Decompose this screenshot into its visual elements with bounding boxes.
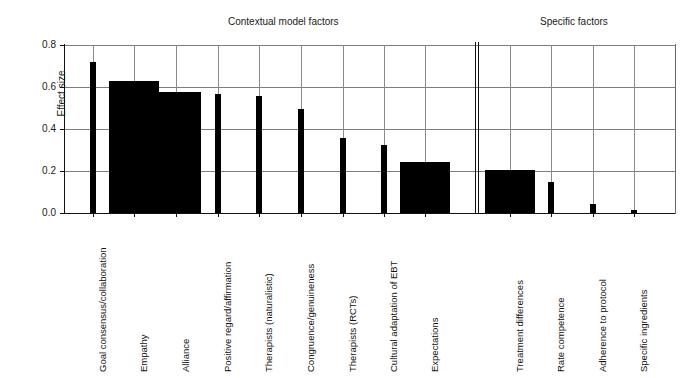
x-tick-mark (551, 213, 552, 217)
x-tick-mark (343, 213, 344, 217)
y-tick-label: 0.4 (30, 123, 56, 134)
bar (485, 170, 535, 213)
y-tick-mark (60, 213, 65, 214)
x-tick-label: Goal consensus/collaboration (97, 247, 108, 372)
x-tick-label: Expectations (429, 318, 440, 372)
y-tick-label: 0.2 (30, 165, 56, 176)
group-separator-line-2 (478, 42, 479, 214)
x-tick-label: Specific ingredients (638, 290, 649, 372)
x-tick-label: Therapists (RCTs) (347, 295, 358, 372)
gridline-x-12 (634, 45, 635, 213)
x-tick-label: Therapists (naturalistic) (263, 273, 274, 372)
x-tick-mark (218, 213, 219, 217)
x-tick-mark (510, 213, 511, 217)
x-tick-mark (259, 213, 260, 217)
x-axis-line (64, 213, 676, 214)
x-tick-label: Treatment differences (514, 280, 525, 372)
x-tick-label: Cultural adaptation of EBT (388, 261, 399, 372)
bar (151, 92, 201, 213)
x-tick-mark (301, 213, 302, 217)
y-tick-mark (60, 45, 65, 46)
x-tick-label: Adherence to protocol (597, 279, 608, 372)
x-tick-mark (134, 213, 135, 217)
gridline-x-11 (593, 45, 594, 213)
x-tick-label: Congruence/genuineness (305, 264, 316, 372)
x-tick-mark (425, 213, 426, 217)
bar (400, 162, 450, 213)
plot-area (65, 45, 675, 213)
y-tick-label: 0.6 (30, 81, 56, 92)
bar (381, 145, 387, 213)
group-label-specific: Specific factors (540, 16, 608, 27)
x-tick-mark (384, 213, 385, 217)
y-tick-mark (60, 87, 65, 88)
bar (340, 138, 346, 213)
bar (90, 62, 96, 213)
y-tick-label: 0.8 (30, 39, 56, 50)
x-tick-label: Empathy (138, 335, 149, 373)
x-tick-mark (634, 213, 635, 217)
bar (256, 96, 262, 213)
x-tick-mark (176, 213, 177, 217)
group-separator-line (475, 42, 476, 214)
gridline-y-0.8 (65, 45, 675, 46)
bar (298, 109, 304, 213)
x-tick-label: Rate competence (555, 298, 566, 372)
bar (590, 204, 596, 213)
x-tick-label: Positive regard/affirmation (222, 262, 233, 372)
plot-right-border (675, 44, 676, 214)
y-tick-mark (60, 129, 65, 130)
effect-size-bar-chart: Contextual model factors Specific factor… (0, 0, 699, 378)
x-tick-mark (593, 213, 594, 217)
y-tick-mark (60, 171, 65, 172)
bar (548, 182, 554, 214)
x-tick-label: Alliance (180, 339, 191, 372)
group-label-contextual: Contextual model factors (228, 16, 339, 27)
y-tick-label: 0.0 (30, 207, 56, 218)
x-tick-mark (93, 213, 94, 217)
bar (215, 94, 221, 213)
